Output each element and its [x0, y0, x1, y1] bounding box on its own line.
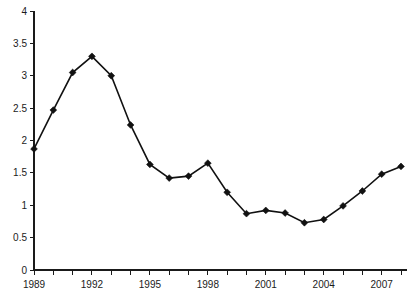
x-axis-tick-label: 2007 — [371, 279, 394, 290]
x-axis-tick-label: 2001 — [255, 279, 278, 290]
data-point-marker — [31, 146, 38, 153]
series-line — [34, 56, 401, 222]
y-axis-tick-label: 3.5 — [13, 38, 27, 49]
line-chart: 00.511.522.533.54 1989199219951998200120… — [0, 0, 409, 305]
y-axis-tick-label: 2 — [21, 135, 27, 146]
y-axis-tick-label: 3 — [21, 70, 27, 81]
y-axis: 00.511.522.533.54 — [13, 6, 34, 276]
data-point-marker — [50, 107, 57, 114]
y-axis-tick-label: 0.5 — [13, 232, 27, 243]
x-axis: 1989199219951998200120042007 — [23, 270, 407, 290]
x-axis-tick-label: 2004 — [313, 279, 336, 290]
x-axis-tick-label: 1989 — [23, 279, 46, 290]
data-point-marker — [398, 163, 405, 170]
data-point-marker — [262, 207, 269, 214]
y-axis-tick-label: 1 — [21, 200, 27, 211]
data-point-marker — [127, 122, 134, 129]
data-series — [31, 53, 405, 226]
x-axis-tick-label: 1995 — [139, 279, 162, 290]
y-axis-tick-label: 0 — [21, 265, 27, 276]
data-point-marker — [282, 210, 289, 217]
data-point-marker — [301, 219, 308, 226]
chart-canvas: 00.511.522.533.54 1989199219951998200120… — [0, 0, 409, 305]
y-axis-tick-label: 2.5 — [13, 103, 27, 114]
y-axis-tick-label: 1.5 — [13, 167, 27, 178]
x-axis-tick-label: 1992 — [81, 279, 104, 290]
y-axis-tick-label: 4 — [21, 6, 27, 17]
x-axis-tick-label: 1998 — [197, 279, 220, 290]
